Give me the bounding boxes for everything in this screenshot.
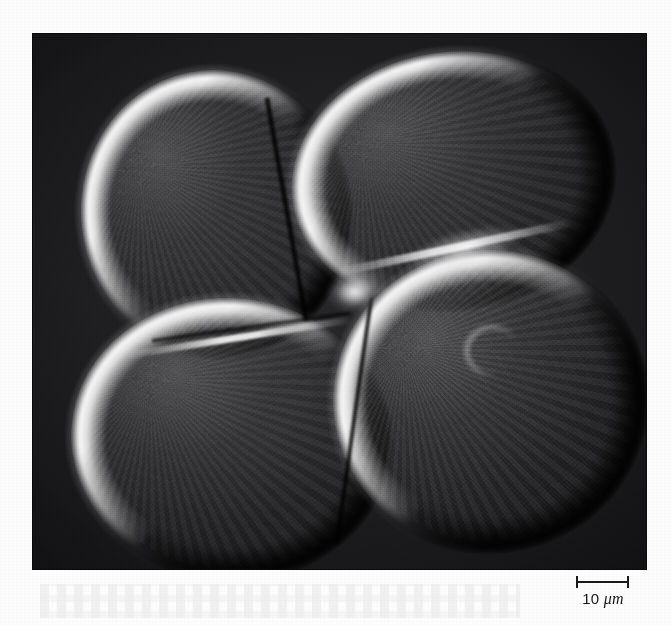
page-bleed-through-ghost [40,584,520,618]
scale-bar-tick-right [627,576,629,588]
dic-micrograph-plate [33,34,646,569]
scale-bar-rule [570,576,636,588]
scale-bar-unit: μm [604,590,624,607]
figure-page: 10 μm [0,0,672,625]
scale-bar-value: 10 [582,590,599,607]
scale-bar: 10 μm [570,576,636,608]
scale-bar-label: 10 μm [570,590,636,608]
scale-bar-line [576,581,629,583]
nucleus-crescent [460,321,526,381]
rosette-junction-highlight [325,270,399,322]
